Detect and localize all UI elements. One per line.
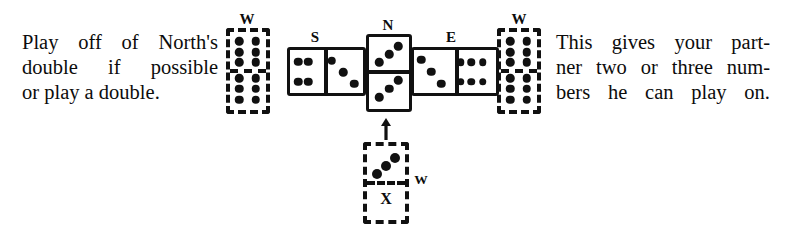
pip: [394, 76, 403, 85]
pip: [327, 57, 336, 66]
pip: [252, 37, 261, 46]
domino-divider: [230, 69, 266, 73]
pip: [372, 169, 382, 179]
domino-label-south: S: [300, 30, 330, 45]
pip: [252, 74, 261, 83]
pip: [523, 85, 532, 94]
pip: [427, 67, 436, 76]
pip: [523, 74, 532, 83]
pip: [252, 96, 261, 105]
pip: [235, 58, 244, 67]
pip: [339, 68, 348, 77]
domino-divider: [501, 69, 537, 73]
caption-right: This gives your part- ner two or three n…: [556, 30, 770, 105]
pip: [375, 58, 384, 67]
pip: [523, 48, 532, 57]
pip: [437, 80, 446, 89]
pip: [304, 78, 313, 87]
pip: [252, 48, 261, 57]
pip: [506, 48, 515, 57]
domino-label-west-left: W: [224, 12, 270, 27]
pip: [506, 74, 515, 83]
pip: [235, 74, 244, 83]
pip: [523, 37, 532, 46]
pip: [235, 48, 244, 57]
domino-divider: [324, 50, 328, 93]
figure-canvas: Play off of North's double if possible o…: [0, 0, 786, 235]
pip: [506, 58, 515, 67]
domino-west-hand-left: [226, 28, 270, 114]
pip: [294, 57, 303, 66]
pip: [417, 56, 426, 65]
pip: [523, 58, 532, 67]
pip: [506, 85, 515, 94]
pip: [252, 58, 261, 67]
pip: [235, 96, 244, 105]
domino-north: [366, 34, 412, 112]
unknown-tile-marker: X: [380, 191, 392, 207]
domino-divider: [367, 181, 405, 185]
caption-left-line-3: or play a double.: [22, 80, 218, 105]
pip: [294, 78, 303, 87]
domino-divider: [369, 70, 409, 74]
pip: [390, 153, 400, 163]
pip: [506, 37, 515, 46]
domino-label-east: E: [436, 30, 466, 45]
domino-divider: [455, 50, 459, 93]
domino-label-north: N: [371, 18, 405, 33]
pip: [468, 58, 476, 66]
domino-label-west-right: W: [496, 12, 542, 27]
pip: [457, 78, 465, 86]
caption-left: Play off of North's double if possible o…: [22, 30, 218, 105]
pip: [252, 85, 261, 94]
caption-right-line-3: bers he can play on.: [556, 80, 770, 105]
pip: [457, 58, 465, 66]
pip: [506, 96, 515, 105]
pip: [523, 96, 532, 105]
domino-south: [287, 47, 366, 96]
domino-label-west-play: W: [411, 172, 431, 187]
caption-left-line-1: Play off of North's: [22, 30, 218, 55]
pip: [468, 78, 476, 86]
caption-right-line-2: ner two or three num-: [556, 55, 770, 80]
domino-east: [411, 47, 499, 96]
pip: [479, 58, 487, 66]
domino-west-play-tile: X: [363, 142, 409, 224]
caption-right-line-1: This gives your part-: [556, 30, 770, 55]
play-direction-arrow-icon: [378, 118, 394, 140]
caption-left-line-2: double if possible: [22, 55, 218, 80]
pip: [235, 37, 244, 46]
pip: [235, 85, 244, 94]
pip: [385, 85, 394, 94]
pip: [375, 93, 384, 102]
pip: [381, 161, 391, 171]
domino-west-hand-right: [497, 28, 541, 114]
pip: [304, 57, 313, 66]
pip: [350, 80, 359, 89]
pip: [385, 50, 394, 59]
pip: [479, 78, 487, 86]
pip: [394, 42, 403, 51]
